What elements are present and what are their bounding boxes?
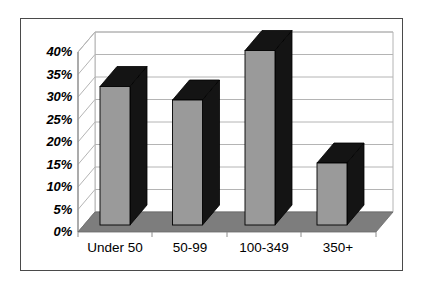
bar-50-99-front <box>173 100 203 225</box>
xtick-label-100-349: 100-349 <box>224 240 304 255</box>
x-axis-ticks <box>78 232 376 237</box>
xtick-label-350-plus: 350+ <box>300 240 376 255</box>
ytick-label-20: 20% <box>26 134 72 149</box>
bar-chart-figure: 40% 35% 30% 25% 20% 15% 10% 5% 0% Under … <box>0 0 425 289</box>
ytick-label-25: 25% <box>26 112 72 127</box>
bar-350-plus[interactable] <box>317 143 364 225</box>
xtick-label-under-50: Under 50 <box>75 240 155 255</box>
bar-100-349[interactable] <box>245 31 292 226</box>
xtick-label-50-99: 50-99 <box>152 240 228 255</box>
ytick-label-0: 0% <box>26 224 72 239</box>
ytick-label-5: 5% <box>26 202 72 217</box>
bar-100-349-side <box>275 31 292 226</box>
bar-350-plus-front <box>317 163 347 225</box>
bar-under-50-side <box>130 67 147 226</box>
ytick-label-10: 10% <box>26 179 72 194</box>
ytick-label-40: 40% <box>26 44 72 59</box>
bar-under-50[interactable] <box>100 67 147 226</box>
ytick-label-30: 30% <box>26 89 72 104</box>
ytick-label-15: 15% <box>26 157 72 172</box>
bar-under-50-front <box>100 87 130 226</box>
ytick-label-35: 35% <box>26 67 72 82</box>
bar-50-99[interactable] <box>173 80 220 225</box>
bar-100-349-front <box>245 51 275 226</box>
bar-50-99-side <box>203 80 220 225</box>
